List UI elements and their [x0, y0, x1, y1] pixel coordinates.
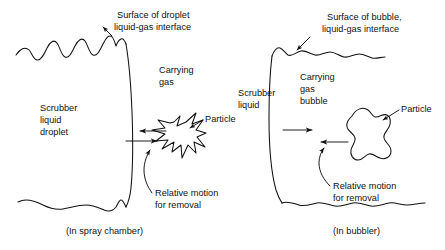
droplet-right-boundary — [126, 44, 133, 207]
left-particle-shape — [152, 113, 206, 158]
left-gas-label-line2: gas — [159, 77, 174, 87]
right-panel: Surface of bubble, liquid-gas interface … — [238, 12, 432, 236]
right-panel-caption: (In bubbler) — [333, 226, 380, 236]
left-liquid-label-line3: droplet — [40, 127, 69, 137]
scrubber-diagram: Surface of droplet liquid-gas interface … — [0, 0, 445, 250]
right-motion-leader — [319, 148, 330, 186]
right-gas-label-line2: gas — [300, 84, 315, 94]
left-gas-label-line1: Carrying — [159, 65, 194, 75]
right-liquid-label-line1: Scrubber — [238, 88, 275, 98]
left-surface-label-line1: Surface of droplet — [117, 10, 190, 20]
left-particle-label: Particle — [205, 114, 236, 124]
right-gas-label-line1: Carrying — [300, 72, 335, 82]
left-panel-caption: (In spray chamber) — [66, 226, 143, 236]
droplet-top-interface — [16, 36, 126, 60]
bubble-left-boundary — [269, 56, 282, 203]
right-liquid-label-line2: liquid — [238, 100, 259, 110]
right-motion-label-line2: for removal — [333, 193, 379, 203]
bubble-top-interface — [272, 48, 385, 58]
left-motion-leader — [144, 150, 152, 193]
droplet-bottom-interface — [18, 200, 126, 211]
right-surface-leader — [297, 37, 310, 50]
left-motion-label-line2: for removal — [155, 200, 201, 210]
left-surface-label-line2: liquid-gas interface — [114, 22, 191, 32]
left-panel: Surface of droplet liquid-gas interface … — [16, 10, 236, 236]
right-particle-shape — [347, 108, 391, 160]
left-motion-label-line1: Relative motion — [155, 188, 218, 198]
left-surface-leader — [103, 27, 112, 36]
right-motion-label-line1: Relative motion — [333, 181, 396, 191]
right-surface-label-line1: Surface of bubble, — [327, 12, 402, 22]
right-surface-label-line2: liquid-gas interface — [322, 24, 399, 34]
figure-root: Surface of droplet liquid-gas interface … — [0, 0, 445, 250]
left-liquid-label-line2: liquid — [40, 115, 61, 125]
right-gas-label-line3: bubble — [300, 96, 328, 106]
right-particle-label: Particle — [401, 104, 432, 114]
left-liquid-label-line1: Scrubber — [40, 103, 77, 113]
